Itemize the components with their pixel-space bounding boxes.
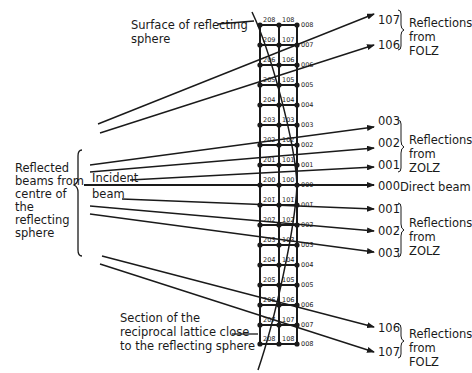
node-label: 008̄ [301,341,313,348]
group-folz-upper-line2: from FOLZ [409,30,469,58]
node-label: 100 [282,177,294,184]
node-label: 203 [263,117,275,124]
node-label: 204̄ [263,257,275,264]
surface-label-line2: sphere [131,32,170,46]
node-label: 107 [282,37,294,44]
node-label: 102 [282,137,294,144]
reflected-label-2: beams from [15,174,84,188]
node-label: 206 [263,57,275,64]
reflection-10-6: 106̄ [378,322,400,334]
group-folz-lower-line1: Reflections [409,327,472,341]
node-label: 103 [282,117,294,124]
reflection-00-1: 001̄ [378,203,400,215]
group-folz-upper-line1: Reflections [409,16,472,30]
node-label: 205 [263,77,275,84]
reflection-10-7: 107̄ [378,346,400,358]
node-label: 004 [301,102,313,109]
node-label: 002 [301,142,313,149]
direct-beam-label: Direct beam [400,180,471,194]
group-zolz-upper-line1: Reflections [409,133,472,147]
node-label: 104̄ [282,257,294,264]
reflected-label-4: the [15,200,34,214]
reflection-106: 106 [378,39,400,51]
node-label: 101̄ [282,197,294,204]
reflection-00-3: 003̄ [378,247,400,259]
node-label: 209 [263,37,275,44]
reflection-107: 107 [378,14,400,26]
incident-label-line2: beam [92,187,125,201]
node-label: 003̄ [301,242,313,249]
reflection-002: 002 [378,137,400,149]
group-folz-lower-line2: from FOLZ [409,341,469,369]
node-label: 204 [263,97,275,104]
node-label: 105 [282,77,294,84]
reflected-label-3: centre of [15,187,67,201]
node-label: 208 [263,17,275,24]
node-label: 108̄ [282,336,294,343]
section-label-2: reciprocal lattice close [120,325,249,339]
node-label: 107̄ [282,317,294,324]
node-label: 005̄ [301,282,313,289]
surface-label: Surface of reflecting [131,18,248,32]
node-label: 203̄ [263,237,275,244]
node-label: 003 [301,122,313,129]
reflection-001: 001 [378,159,400,171]
reflected-label-5: reflecting [15,213,70,227]
node-label: 001̄ [301,202,313,209]
node-label: 104 [282,97,294,104]
node-label: 000 [301,182,313,189]
node-label: 106̄ [282,297,294,304]
node-label: 007̄ [301,322,313,329]
node-label: 202 [263,137,275,144]
node-label: 207̄ [263,317,275,324]
node-label: 108 [282,17,294,24]
node-label: 002̄ [301,222,313,229]
node-label: 208̄ [263,336,275,343]
node-label: 200 [263,177,275,184]
reflection-000: 000 [378,180,400,192]
incident-label: Incident [92,171,138,185]
section-label-3: to the reflecting sphere [120,339,255,353]
node-label: 205̄ [263,277,275,284]
group-zolz-lower-line1: Reflections [409,216,472,230]
node-label: 101 [282,157,294,164]
node-label: 007 [301,42,313,49]
node-label: 004̄ [301,262,313,269]
node-label: 105̄ [282,277,294,284]
node-label: 106 [282,57,294,64]
node-label: 006̄ [301,302,313,309]
group-zolz-upper-line2: from ZOLZ [409,147,469,175]
section-label-1: Section of the [120,311,200,325]
node-label: 005 [301,82,313,89]
node-label: 206̄ [263,297,275,304]
node-label: 103̄ [282,237,294,244]
node-label: 001 [301,162,313,169]
node-label: 008 [301,22,313,29]
reflection-003: 003 [378,115,400,127]
node-label: 202̄ [263,217,275,224]
node-label: 201̄ [263,197,275,204]
reflected-beams-brace [74,150,82,256]
group-zolz-lower-line2: from ZOLZ [409,230,469,258]
node-label: 201 [263,157,275,164]
node-label: 102̄ [282,217,294,224]
reflection-00-2: 002̄ [378,225,400,237]
reflected-label-1: Reflected [15,161,69,175]
node-label: 006 [301,62,313,69]
reflected-label-6: sphere [15,226,54,240]
